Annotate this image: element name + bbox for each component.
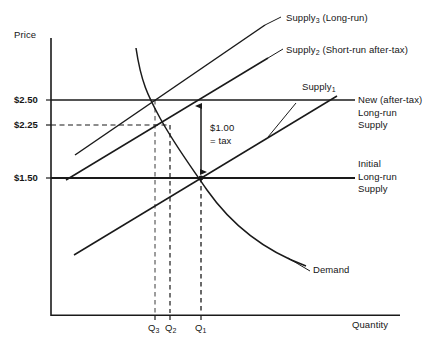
demand-label: Demand (313, 264, 350, 276)
supply1-curve (74, 96, 337, 255)
y-tick-label-1-50: $1.50 (14, 172, 38, 184)
equilibrium-point-markers (199, 176, 204, 181)
supply2-label: Supply2 (Short-run after-tax) (286, 44, 408, 56)
x-tick-label-q1-sub: 1 (203, 327, 207, 334)
x-tick-label-q2: Q2 (165, 322, 177, 334)
supply2-label-base: Supply (286, 44, 316, 55)
y-axis-label: Price (14, 29, 36, 41)
initial-long-run-supply-label: Initial Long-run Supply (358, 158, 397, 196)
tax-annotation-label: $1.00 = tax (210, 122, 234, 147)
demand-curve (136, 48, 306, 266)
supply3-label-base: Supply (286, 12, 316, 23)
x-tick-label-q3-base: Q (148, 322, 156, 333)
x-tick-label-q3-sub: 3 (156, 327, 160, 334)
equilibrium-point-q1 (199, 176, 204, 181)
new-after-tax-long-run-supply-label: New (after-tax) Long-run Supply (358, 94, 422, 132)
supply3-label: Supply3 (Long-run) (286, 12, 368, 24)
supply1-leader-line (268, 103, 296, 137)
x-tick-label-q2-sub: 2 (173, 327, 177, 334)
demand-leader-line (288, 258, 310, 271)
x-tick-label-q1-base: Q (195, 322, 203, 333)
x-tick-label-q2-base: Q (165, 322, 173, 333)
supply3-leader-line (265, 17, 281, 25)
supply2-label-sub: 2 (316, 49, 320, 56)
supply-demand-tax-diagram: Price Quantity $2.50 $2.25 $1.50 Q3 Q2 Q… (0, 0, 447, 355)
x-tick-label-q3: Q3 (148, 322, 160, 334)
supply3-label-paren: (Long-run) (322, 12, 367, 23)
supply1-label-base: Supply (302, 81, 332, 92)
supply2-leader-line (268, 49, 283, 58)
supply1-label: Supply1 (302, 81, 336, 93)
y-tick-label-2-50: $2.50 (14, 94, 38, 106)
supply1-label-sub: 1 (332, 86, 336, 93)
supply3-label-sub: 3 (316, 17, 320, 24)
x-tick-label-q1: Q1 (195, 322, 207, 334)
supply2-label-paren: (Short-run after-tax) (322, 44, 408, 55)
x-axis-label: Quantity (352, 319, 388, 331)
supply2-curve (66, 58, 268, 180)
y-tick-label-2-25: $2.25 (14, 119, 38, 131)
